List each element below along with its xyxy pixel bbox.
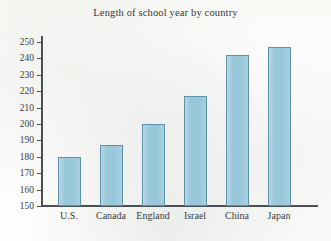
y-axis-tick	[37, 108, 42, 109]
y-axis-tick-label: 240	[8, 53, 34, 63]
y-axis-tick-label: 150	[8, 201, 34, 211]
y-axis-tick	[37, 157, 42, 158]
bar-chart: Length of school year by country 1501601…	[0, 0, 331, 241]
y-axis-tick-label: 220	[8, 86, 34, 96]
bar-canada	[100, 145, 123, 206]
y-axis-tick-label: 170	[8, 168, 34, 178]
bar-japan	[268, 47, 291, 206]
y-axis-tick	[37, 206, 42, 207]
y-axis-tick	[37, 91, 42, 92]
y-axis-tick	[37, 124, 42, 125]
y-axis-tick-label: 230	[8, 70, 34, 80]
y-axis-tick	[37, 173, 42, 174]
y-axis-tick	[37, 75, 42, 76]
y-axis-tick	[37, 58, 42, 59]
y-axis-tick	[37, 140, 42, 141]
bar-sheen	[59, 158, 80, 205]
chart-title: Length of school year by country	[0, 7, 331, 18]
bar-sheen	[101, 146, 122, 205]
y-axis-tick-label: 160	[8, 185, 34, 195]
bar-u-s	[58, 157, 81, 206]
y-axis-tick-label: 180	[8, 152, 34, 162]
x-axis-label-japan: Japan	[249, 210, 309, 222]
y-axis-tick	[37, 42, 42, 43]
y-axis-tick-label: 200	[8, 119, 34, 129]
bar-england	[142, 124, 165, 206]
y-axis-line	[41, 36, 43, 207]
bar-israel	[184, 96, 207, 206]
bar-sheen	[269, 48, 290, 205]
bar-sheen	[185, 97, 206, 205]
bar-china	[226, 55, 249, 206]
y-axis-tick-label: 190	[8, 135, 34, 145]
y-axis-tick-label: 210	[8, 103, 34, 113]
bar-sheen	[227, 56, 248, 205]
bar-sheen	[143, 125, 164, 205]
y-axis-tick	[37, 190, 42, 191]
y-axis-tick-label: 250	[8, 37, 34, 47]
